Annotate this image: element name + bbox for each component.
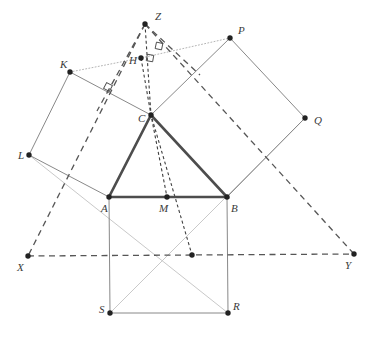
point-K (67, 69, 72, 74)
point-B (224, 194, 229, 199)
label-X: X (16, 261, 25, 273)
faint-construction-lines (29, 118, 305, 313)
point-S (107, 310, 112, 315)
point-M (164, 194, 169, 199)
label-P: P (237, 24, 245, 36)
label-Z: Z (155, 10, 162, 22)
label-B: B (231, 202, 238, 214)
label-A: A (100, 202, 108, 214)
cevian-lines-group (141, 24, 192, 255)
line-Z-X (28, 24, 145, 256)
triangle-group (109, 115, 227, 197)
label-S: S (99, 303, 105, 315)
point-labels-group: ZHKPCQLAMBXYSR (16, 10, 353, 315)
points-group (25, 21, 356, 315)
line-Z-P-ext (145, 24, 200, 75)
point-R (225, 310, 230, 315)
point-H (138, 55, 143, 60)
square-BCPQ (151, 38, 305, 197)
label-H: H (128, 54, 138, 66)
line-L-R (29, 155, 228, 313)
point-N (189, 252, 194, 257)
geometry-diagram: ZHKPCQLAMBXYSR (0, 0, 376, 339)
label-Q: Q (314, 114, 322, 126)
label-R: R (232, 300, 240, 312)
point-L (26, 152, 31, 157)
label-M: M (158, 202, 169, 214)
point-Q (302, 115, 307, 120)
point-C (148, 112, 153, 117)
label-L: L (17, 149, 24, 161)
line-Z-K-ext (97, 24, 145, 111)
right-angle-near-Z-foot (155, 42, 163, 50)
geometry-canvas: ZHKPCQLAMBXYSR (0, 0, 376, 339)
triangle-ABC (109, 115, 227, 197)
point-X (25, 253, 30, 258)
point-P (227, 35, 232, 40)
point-Y (351, 251, 356, 256)
point-A (106, 194, 111, 199)
label-Y: Y (345, 259, 353, 271)
label-K: K (59, 58, 68, 70)
dashed-lines-group (28, 24, 354, 256)
square-ACKL (29, 72, 151, 197)
label-C: C (138, 112, 146, 124)
squares-group (29, 38, 305, 313)
point-Z (142, 21, 147, 26)
